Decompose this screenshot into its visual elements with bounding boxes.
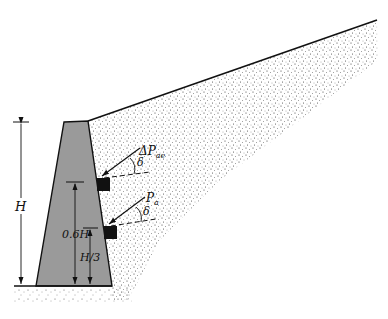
- label-H: H: [14, 199, 27, 214]
- label-0-6H: 0.6H: [62, 228, 89, 241]
- label-H-over-3: H/3: [79, 251, 100, 264]
- label-delta-2: δ: [143, 205, 150, 218]
- label-delta-1: δ: [137, 156, 144, 169]
- static-force-block: [104, 226, 117, 239]
- height-dimension-H: H: [13, 122, 29, 284]
- dynamic-force-block: [97, 178, 110, 191]
- retaining-wall-diagram: H 0.6H H/3 ΔPae δ Pa δ: [0, 0, 388, 319]
